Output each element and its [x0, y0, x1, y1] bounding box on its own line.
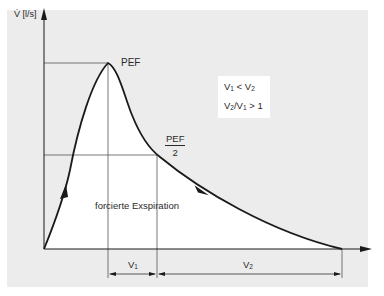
half-pef-numerator: PEF — [165, 132, 185, 146]
note-line-1: V1 < V2 — [224, 81, 255, 92]
curve-label: forcierte Exspiration — [95, 200, 179, 211]
y-axis-label: V̇ [l/s] — [14, 9, 37, 19]
note-line-2: V2/V1 > 1 — [224, 100, 263, 111]
half-pef-label: PEF 2 — [165, 132, 185, 159]
volume-relation-note: V1 < V2 V2/V1 > 1 — [218, 76, 270, 118]
pef-label: PEF — [121, 57, 140, 68]
v2-label: V2 — [243, 259, 253, 270]
v1-label: V1 — [128, 259, 138, 270]
flow-volume-diagram — [0, 0, 384, 296]
half-pef-denominator: 2 — [173, 147, 178, 158]
